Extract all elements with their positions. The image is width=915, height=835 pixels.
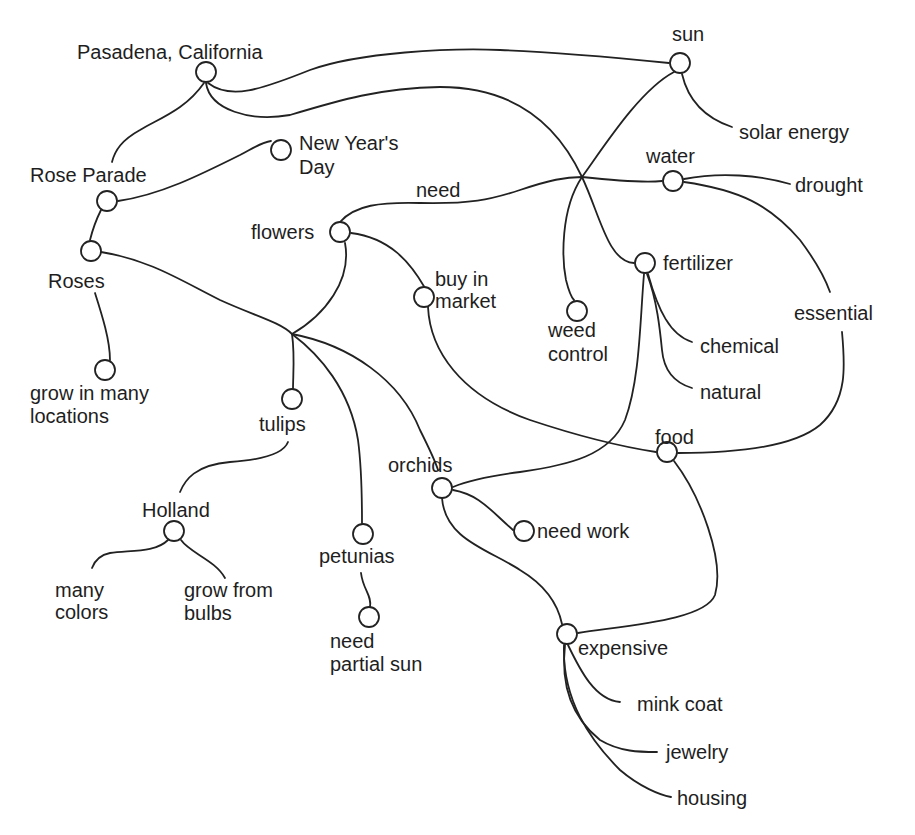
label-many-colors-line2: colors: [55, 601, 108, 623]
edge-buyinmarket-food: [428, 307, 656, 452]
label-housing: housing: [677, 787, 747, 809]
node-petunias[interactable]: [353, 524, 373, 544]
node-need-work[interactable]: [514, 521, 534, 541]
label-natural: natural: [700, 381, 761, 403]
label-pasadena: Pasadena, California: [77, 41, 264, 63]
node-sun[interactable]: [670, 53, 690, 73]
labels: Pasadena, California sun solar energy Ro…: [30, 23, 873, 809]
node-orchids[interactable]: [432, 478, 452, 498]
node-pasadena[interactable]: [196, 62, 216, 82]
edge-water-essential: [684, 182, 830, 292]
label-sun: sun: [672, 23, 704, 45]
edge-pasadena-roseparade: [112, 83, 204, 162]
label-buy-in-market-line2: market: [435, 290, 497, 312]
label-food: food: [655, 426, 694, 448]
label-buy-in-market-line1: buy in: [435, 268, 488, 290]
edge-flowers-buyinmarket: [351, 233, 425, 288]
edge-pasadena-sun: [208, 50, 669, 92]
label-fertilizer: fertilizer: [663, 252, 733, 274]
label-water: water: [645, 145, 695, 167]
edge-flowers-water: [340, 177, 662, 222]
label-need-partial-sun-line2: partial sun: [330, 653, 422, 675]
label-grow-from-bulbs-line2: bulbs: [184, 602, 232, 624]
label-solar-energy: solar energy: [739, 121, 849, 143]
edge-flowers-junction: [292, 243, 346, 334]
edge-sun-weedcontrol: [563, 72, 674, 300]
label-petunias: petunias: [319, 545, 395, 567]
edge-orchids-needwork: [453, 490, 513, 530]
node-roses[interactable]: [81, 241, 101, 261]
label-essential: essential: [794, 302, 873, 324]
edge-orchids-expensive: [442, 498, 562, 624]
node-holland[interactable]: [164, 521, 184, 541]
edge-holland-growfrombulbs: [181, 540, 225, 578]
label-new-years-line2: Day: [299, 156, 335, 178]
node-rose-parade[interactable]: [97, 191, 117, 211]
node-tulips[interactable]: [282, 389, 302, 409]
node-weed-control[interactable]: [567, 301, 587, 321]
semantic-map-diagram: Pasadena, California sun solar energy Ro…: [0, 0, 915, 835]
edge-water-drought: [684, 175, 790, 184]
label-many-colors-line1: many: [55, 579, 104, 601]
label-grow-from-bulbs-line1: grow from: [184, 579, 273, 601]
label-expensive: expensive: [578, 637, 668, 659]
label-jewelry: jewelry: [665, 741, 728, 763]
node-new-years-day[interactable]: [271, 140, 291, 160]
edge-roses-growmany: [95, 293, 110, 360]
label-mink-coat: mink coat: [637, 693, 723, 715]
label-orchids: orchids: [388, 454, 452, 476]
label-weed-control-line1: weed: [547, 319, 596, 341]
edge-tulips-holland: [180, 442, 288, 492]
label-tulips: tulips: [259, 413, 306, 435]
node-expensive[interactable]: [557, 624, 577, 644]
node-water[interactable]: [663, 171, 683, 191]
label-grow-many-line2: locations: [30, 405, 109, 427]
label-need: need: [416, 179, 461, 201]
label-roses: Roses: [48, 270, 105, 292]
edges: [90, 50, 844, 797]
node-buy-in-market[interactable]: [414, 287, 434, 307]
label-holland: Holland: [142, 499, 210, 521]
edge-fertilizer-chemical: [648, 274, 692, 342]
edge-junction-tulips: [292, 334, 294, 390]
label-flowers: flowers: [251, 221, 314, 243]
node-grow-many-locations[interactable]: [95, 360, 115, 380]
node-flowers[interactable]: [330, 222, 350, 242]
label-grow-many-line1: grow in many: [30, 382, 149, 404]
edge-sun-solarenergy: [682, 74, 732, 127]
label-rose-parade: Rose Parade: [30, 164, 147, 186]
label-need-work: need work: [537, 520, 630, 542]
label-chemical: chemical: [700, 335, 779, 357]
edge-roseparade-roses: [90, 210, 101, 240]
node-need-partial-sun[interactable]: [359, 607, 379, 627]
label-drought: drought: [795, 174, 863, 196]
label-new-years-line1: New Year's: [299, 132, 398, 154]
edge-food-expensive: [578, 461, 717, 633]
label-need-partial-sun-line1: need: [330, 630, 375, 652]
node-fertilizer[interactable]: [635, 253, 655, 273]
edge-roses-junction: [101, 252, 292, 334]
edge-holland-manycolors: [92, 540, 168, 568]
label-weed-control-line2: control: [548, 343, 608, 365]
edge-petunias-partialsun: [361, 573, 370, 607]
